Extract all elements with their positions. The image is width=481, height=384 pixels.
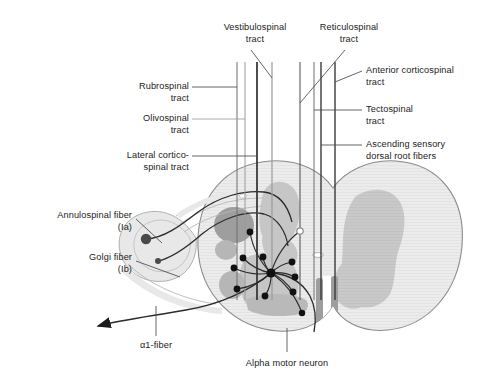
label-ascending-sensory-dorsal-root-fibers-line-2: dorsal root fibers [366,151,481,163]
figure-root: VestibulospinaltractReticulospinaltractR… [0,0,481,384]
label-lateral-corticospinal-tract: Lateral cortico-spinal tract [60,150,189,173]
label-tectospinal-tract: Tectospinaltract [366,104,481,127]
label-anterior-corticospinal-tract-line-2: tract [366,77,481,89]
label-rubrospinal-tract-line-2: tract [60,93,189,105]
ventral-median-fissure-left [316,278,323,334]
synapse-terminal-8 [234,286,241,293]
olivospinal-tract-patch [219,271,245,299]
label-alpha1-fiber-line-1: α1-fiber [112,340,200,352]
synapse-terminal-11 [299,310,305,316]
label-annulospinal-fiber-line-1: Annulospinal fiber [10,210,132,222]
synapse-terminal-9 [290,289,297,296]
label-reticulospinal-tract: Reticulospinaltract [300,22,398,45]
label-anterior-corticospinal-tract: Anterior corticospinaltract [366,65,481,88]
leader-reticulospinal [300,50,345,103]
rubrospinal-tract-patch [215,240,237,260]
synapse-terminal-10 [262,293,269,300]
alpha-motor-neuron-soma [266,268,275,277]
label-olivospinal-tract-line-1: Olivospinal [60,113,189,125]
label-annulospinal-fiber-line-2: (Ia) [10,222,132,234]
leader-anterior-corticospinal [335,71,362,82]
label-tectospinal-tract-line-1: Tectospinal [366,104,481,116]
synapse-terminal-3 [240,255,247,262]
label-golgi-fiber-line-1: Golgi fiber [10,252,132,264]
synapse-terminal-5 [289,259,296,266]
label-anterior-corticospinal-tract-line-1: Anterior corticospinal [366,65,481,77]
label-rubrospinal-tract: Rubrospinaltract [60,81,189,104]
label-vestibulospinal-tract: Vestibulospinaltract [203,22,307,45]
label-reticulospinal-tract-line-1: Reticulospinal [300,22,398,34]
label-lateral-corticospinal-tract-line-2: spinal tract [60,162,189,174]
label-vestibulospinal-tract-line-2: tract [203,34,307,46]
ventral-median-fissure-gap [323,276,331,334]
synapse-terminal-7 [292,274,299,281]
synapse-terminal-4 [260,254,267,261]
label-olivospinal-tract-line-2: tract [60,125,189,137]
spinal-cord-diagram [0,0,481,384]
label-lateral-corticospinal-tract-line-1: Lateral cortico- [60,150,189,162]
synapse-terminal-6 [231,265,238,272]
label-olivospinal-tract: Olivospinaltract [60,113,189,136]
label-annulospinal-fiber: Annulospinal fiber(Ia) [10,210,132,233]
label-golgi-fiber: Golgi fiber(Ib) [10,252,132,275]
dorsal-notch [239,194,246,198]
label-reticulospinal-tract-line-2: tract [300,34,398,46]
label-ascending-sensory-dorsal-root-fibers-line-1: Ascending sensory [366,139,481,151]
label-alpha1-fiber: α1-fiber [112,340,200,352]
label-tectospinal-tract-line-2: tract [366,116,481,128]
golgi-receptor-dot [155,258,161,264]
label-alpha-motor-neuron: Alpha motor neuron [222,358,352,370]
label-alpha-motor-neuron-line-1: Alpha motor neuron [222,358,352,370]
label-ascending-sensory-dorsal-root-fibers: Ascending sensorydorsal root fibers [366,139,481,162]
label-rubrospinal-tract-line-1: Rubrospinal [60,81,189,93]
synapse-terminal-1 [247,229,254,236]
annulospinal-receptor-dot [141,234,151,244]
leader-vestibulospinal [251,50,272,78]
lateral-corticospinal-tract-patch [214,207,254,243]
label-vestibulospinal-tract-line-1: Vestibulospinal [203,22,307,34]
label-golgi-fiber-line-2: (Ib) [10,264,132,276]
synapse-terminal-2 [297,228,303,234]
